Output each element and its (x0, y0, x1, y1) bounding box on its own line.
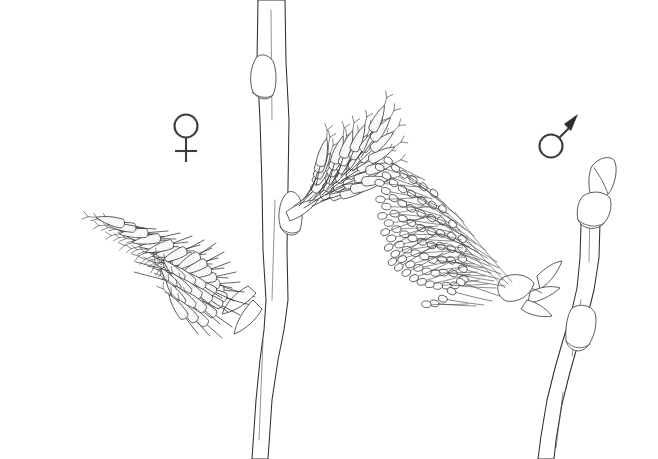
stem-bud-lower (566, 305, 596, 351)
botanical-illustration-figure: Willow (Salix) dioecious catkins — pisti… (0, 0, 658, 459)
terminal-bud-lateral (577, 192, 611, 228)
staminate-catkin (374, 154, 512, 314)
catkin-bract-lower (222, 286, 262, 334)
venus-symbol (175, 115, 198, 163)
pistillate-catkin-lower-left (82, 209, 262, 342)
staminate-catkin-base (498, 275, 534, 302)
pistillate-catkin-upper-right (286, 91, 409, 221)
mars-symbol (540, 114, 579, 158)
stem-bud-upper (251, 55, 276, 99)
illustration-canvas (0, 0, 658, 459)
panel-pistillate (82, 0, 409, 459)
panel-staminate (374, 154, 616, 459)
